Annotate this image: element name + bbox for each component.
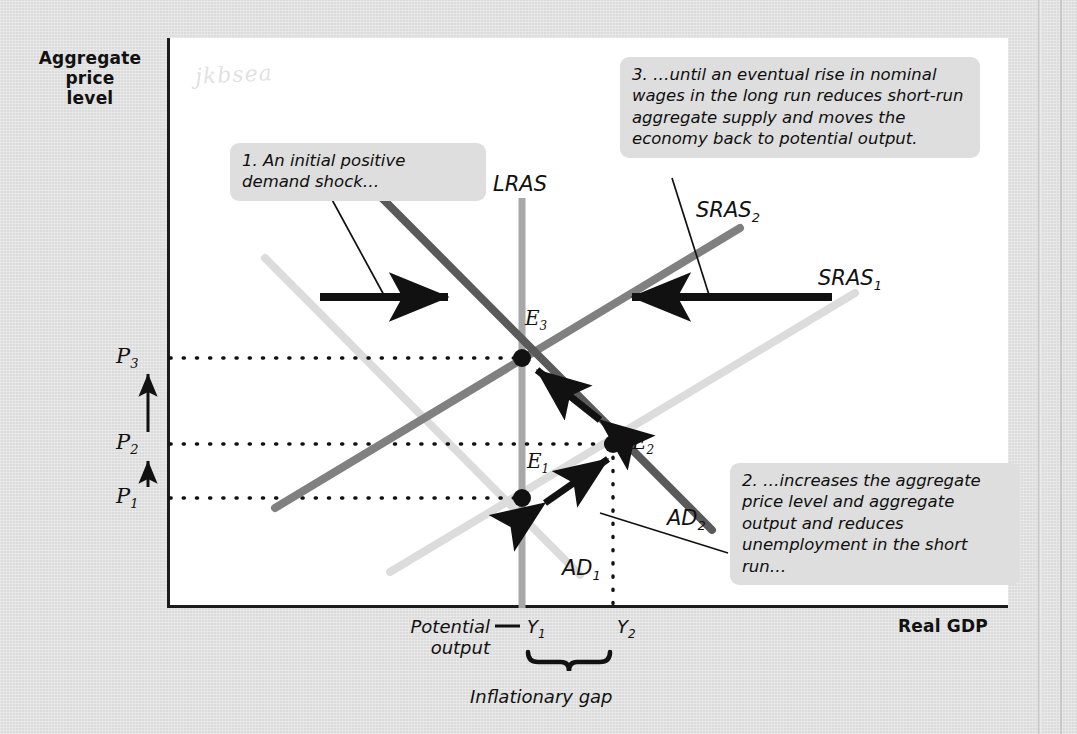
y-tick-p3: P3 [116,344,138,371]
x-tick-y1-sub: 1 [538,627,546,641]
callout-2: 2. …increases the aggregate price level … [730,463,1020,585]
arrow-e2-to-e3 [537,370,600,420]
y-tick-p2: P2 [116,430,138,457]
equilibrium-label-e1: E1 [527,449,549,476]
y-tick-p1-sub: 1 [130,496,138,511]
curve-label-sras2-sub: 2 [752,210,760,225]
potential-output-line1: Potential [398,616,490,637]
arrow-e1-to-e2 [545,459,608,503]
point-e2 [604,435,622,453]
y-tick-p2-base: P [116,430,130,454]
leader-line-callout-1 [330,196,385,297]
leader-line-callout-2 [600,513,728,553]
callout-3: 3. …until an eventual rise in nominal wa… [620,57,980,158]
curve-label-ad2-base: AD [667,506,698,530]
curve-label-ad1-base: AD [562,556,593,580]
y-tick-p3-sub: 3 [130,356,138,371]
callout-1: 1. An initial positive demand shock… [230,143,486,201]
leader-line-callout-3 [672,178,710,298]
curve-label-ad1: AD1 [562,556,601,583]
curve-label-sras2-base: SRAS [696,198,752,222]
curve-label-ad1-sub: 1 [593,568,601,583]
curve-sras2 [275,228,740,508]
x-axis-title: Real GDP [898,616,988,636]
x-tick-y2: Y2 [617,616,636,641]
y-axis-title-line1: Aggregate [20,48,160,68]
equilibrium-label-e3-sub: 3 [540,319,548,333]
curve-label-sras1-base: SRAS [818,266,874,290]
inflationary-gap-label: Inflationary gap [470,686,613,707]
equilibrium-label-e3: E3 [525,306,547,333]
equilibrium-label-e2-base: E [632,430,647,454]
point-e3 [513,349,531,367]
y-tick-p1: P1 [116,484,138,511]
y-tick-p1-base: P [116,484,130,508]
equilibrium-label-e3-base: E [525,306,540,330]
y-axis-title-line3: level [20,88,160,108]
curve-label-sras2: SRAS2 [696,198,760,225]
y-axis-title-line2: price [20,68,160,88]
equilibrium-label-e1-base: E [527,449,542,473]
equilibrium-label-e2: E2 [632,430,654,457]
x-tick-y2-base: Y [617,616,628,637]
y-tick-p2-sub: 2 [130,442,138,457]
point-e1 [513,489,531,507]
y-tick-p3-base: P [116,344,130,368]
inflationary-gap-brace [528,652,610,671]
y-axis-title: Aggregate price level [20,48,160,108]
curve-label-sras1-sub: 1 [874,278,882,293]
x-tick-y1-base: Y [527,616,538,637]
potential-output-label: Potential output [398,616,490,658]
curve-label-ad2-sub: 2 [698,518,706,533]
curve-label-sras1: SRAS1 [818,266,882,293]
potential-output-line2: output [398,637,490,658]
curve-label-lras: LRAS [493,172,547,196]
x-tick-y2-sub: 2 [628,627,636,641]
curve-label-ad2: AD2 [667,506,706,533]
equilibrium-label-e1-sub: 1 [542,462,550,476]
equilibrium-label-e2-sub: 2 [647,443,655,457]
x-tick-y1: Y1 [527,616,546,641]
